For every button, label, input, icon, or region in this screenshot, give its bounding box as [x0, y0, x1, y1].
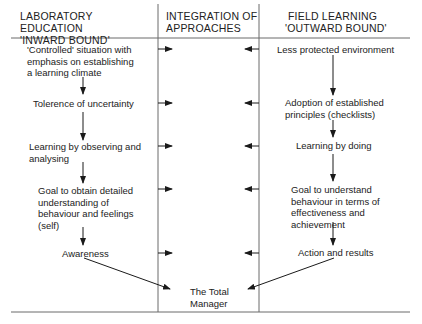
step-text-line: a learning climate: [27, 67, 157, 79]
result-line: The Total: [190, 286, 250, 298]
right-step-learning-by-doing: Learning by doing: [296, 140, 406, 152]
middle-header-line1: INTEGRATION OF: [166, 10, 258, 22]
step-text-line: Learning by observing and: [29, 141, 157, 153]
step-text-line: (self): [38, 220, 157, 232]
step-text-line: analysing: [29, 153, 157, 165]
step-text-line: Goal to obtain detailed: [38, 185, 157, 197]
result-line: Manager: [190, 298, 250, 310]
integration-arrows-left: [158, 49, 172, 253]
right-step-goal-behaviour: Goal to understand behaviour in terms of…: [291, 184, 411, 230]
right-header-line1: FIELD LEARNING: [278, 10, 408, 22]
middle-header-line2: APPROACHES: [166, 22, 258, 34]
step-text-line: achievement: [291, 219, 411, 231]
action-to-manager-arrow: [248, 258, 334, 289]
step-text-line: Less protected environment: [277, 44, 412, 56]
step-text-line: effectiveness and: [291, 207, 411, 219]
result-total-manager: The Total Manager: [190, 286, 250, 309]
right-column-header: FIELD LEARNING 'OUTWARD BOUND': [278, 10, 408, 34]
step-text-line: Action and results: [298, 247, 408, 259]
left-header-line1: LABORATORY EDUCATION: [20, 10, 155, 34]
left-step-observing: Learning by observing and analysing: [29, 141, 157, 164]
middle-column-header: INTEGRATION OF APPROACHES: [166, 10, 258, 34]
left-step-controlled-situation: 'Controlled' situation with emphasis on …: [27, 44, 157, 79]
integration-arrows-right: [245, 49, 259, 253]
left-step-tolerance: Tolerence of uncertainty: [33, 98, 157, 110]
left-step-goal-understanding: Goal to obtain detailed understanding of…: [38, 185, 157, 231]
awareness-to-manager-arrow: [84, 258, 170, 289]
left-column-header: LABORATORY EDUCATION 'INWARD BOUND': [20, 10, 155, 46]
step-text-line: Tolerence of uncertainty: [33, 98, 157, 110]
step-text-line: behaviour and feelings: [38, 208, 157, 220]
left-step-awareness: Awareness: [62, 248, 152, 260]
step-text-line: understanding of: [38, 197, 157, 209]
right-step-less-protected: Less protected environment: [277, 44, 412, 56]
step-text-line: Awareness: [62, 248, 152, 260]
right-step-adoption-principles: Adoption of established principles (chec…: [285, 97, 410, 120]
step-text-line: Learning by doing: [296, 140, 406, 152]
right-step-action-results: Action and results: [298, 247, 408, 259]
step-text-line: Goal to understand: [291, 184, 411, 196]
step-text-line: 'Controlled' situation with: [27, 44, 157, 56]
step-text-line: Adoption of established: [285, 97, 410, 109]
step-text-line: principles (checklists): [285, 109, 410, 121]
step-text-line: behaviour in terms of: [291, 196, 411, 208]
right-header-line2: 'OUTWARD BOUND': [278, 22, 408, 34]
step-text-line: emphasis on establishing: [27, 56, 157, 68]
